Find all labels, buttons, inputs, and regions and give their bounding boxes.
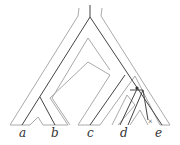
leaf-label-d: d <box>120 126 128 140</box>
gene-tree <box>22 5 162 125</box>
leaf-label-c: c <box>87 126 94 140</box>
leaf-label-e: e <box>155 126 162 140</box>
duplication-marker <box>135 86 138 89</box>
leaf-label-b: b <box>51 126 59 140</box>
loss-marker: × <box>148 117 153 126</box>
species-gene-tree: × <box>0 0 180 145</box>
tree-diagram: × a b c d e <box>0 0 180 145</box>
leaf-label-a: a <box>19 126 26 140</box>
